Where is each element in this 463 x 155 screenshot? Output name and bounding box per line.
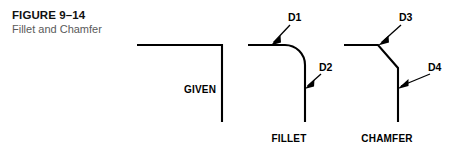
chamfer-label-d4: D4 [428,61,442,73]
fillet-leader-d2: D2 [305,61,333,89]
chamfer-leader-d4: D4 [398,61,442,89]
figure-container: FIGURE 9–14 Fillet and Chamfer GIVEN D1 … [0,0,463,155]
diagram-chamfer: D3 D4 CHAMFER [344,11,442,144]
fillet-label-d2: D2 [319,61,333,73]
fillet-leader-d1-line [274,25,291,43]
fillet-leader-d1: D1 [271,11,302,46]
diagram-fillet: D1 D2 FILLET [248,11,333,144]
chamfer-leader-d3-arrowhead [378,36,389,46]
fillet-label-d1: D1 [288,11,302,23]
given-caption: GIVEN [184,84,216,95]
chamfer-leader-d3: D3 [378,11,413,46]
diagram-given: GIVEN [137,45,222,122]
fillet-caption: FILLET [271,133,306,144]
chamfer-caption: CHAMFER [361,133,413,144]
chamfer-corner-outline [344,45,398,122]
technical-drawing-canvas: GIVEN D1 D2 FILLET [0,0,463,155]
chamfer-label-d3: D3 [399,11,413,23]
chamfer-leader-d4-arrowhead [398,79,409,89]
fillet-corner-outline [248,45,305,122]
